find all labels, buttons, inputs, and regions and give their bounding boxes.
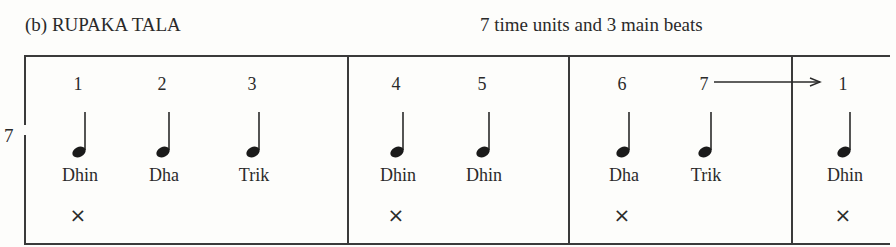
arrow-icon [714,74,824,94]
beat-number: 1 [74,74,83,95]
beat-number: 2 [158,74,167,95]
bol-syllable: Dhin [62,165,98,186]
quarter-note-icon [383,110,413,160]
beat-number: 6 [618,74,627,95]
cycle-length-label: 7 [4,125,14,147]
bol-syllable: Trik [691,165,721,186]
frame-left-line-lower [24,135,26,245]
clap-mark-icon: × [614,203,631,227]
bol-syllable: Dha [149,165,179,186]
diagram-title: (b) RUPAKA TALA [25,14,181,36]
quarter-note-icon [469,110,499,160]
beat-number: 7 [700,74,709,95]
quarter-note-icon [65,110,95,160]
bol-syllable: Trik [239,165,269,186]
section-divider [347,55,349,245]
beat-number: 3 [248,74,257,95]
beat-number: 4 [392,74,401,95]
bol-syllable: Dha [609,165,639,186]
quarter-note-icon [830,110,860,160]
quarter-note-icon [609,110,639,160]
clap-mark-icon: × [70,203,87,227]
frame-top-line [24,55,890,57]
bol-syllable: Dhin [380,165,416,186]
clap-mark-icon: × [388,203,405,227]
quarter-note-icon [239,110,269,160]
bol-syllable: Dhin [827,165,863,186]
frame-bottom-line [24,243,890,245]
clap-mark-icon: × [835,203,852,227]
diagram-subtitle: 7 time units and 3 main beats [480,14,703,36]
beat-number: 5 [478,74,487,95]
quarter-note-icon [691,110,721,160]
quarter-note-icon [149,110,179,160]
section-divider [568,55,570,245]
beat-number: 1 [839,74,848,95]
bol-syllable: Dhin [466,165,502,186]
frame-left-line-upper [24,55,26,125]
